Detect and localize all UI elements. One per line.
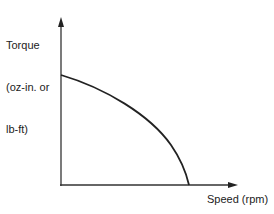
x-axis-arrow-icon [228,182,238,188]
x-axis-label: Speed (rpm) [207,193,268,205]
y-axis-arrow-icon [58,17,64,27]
torque-curve [61,75,189,185]
torque-speed-chart [0,0,274,214]
